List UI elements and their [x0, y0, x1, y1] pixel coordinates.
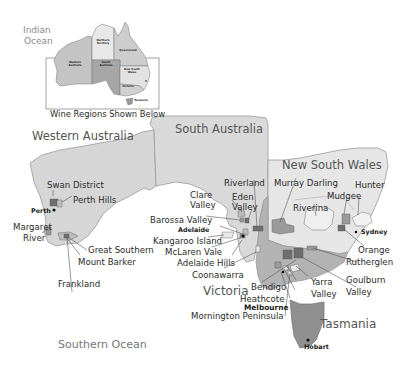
region-mclaren-vale: McLaren Vale — [165, 248, 222, 257]
region-bendigo: Bendigo — [251, 283, 286, 292]
city-adelaide: Adelaide — [178, 227, 209, 233]
inset-label-qld: Queensland — [116, 50, 140, 53]
inset-label-vic: Victoria — [120, 86, 136, 89]
inset-label-tas: Tasmania — [133, 100, 149, 103]
region-orange: Orange — [358, 246, 390, 255]
city-perth: Perth — [31, 208, 51, 214]
inset-label-wa: Western Australia — [64, 62, 86, 68]
region-clare-valley-line1: Clare — [190, 191, 212, 200]
sydney-dot — [355, 231, 358, 234]
orange-region — [338, 225, 345, 231]
region-eden-valley-line1: Eden — [232, 193, 254, 202]
region-barossa-valley: Barossa Valley — [150, 216, 212, 225]
riverland-region — [253, 226, 263, 231]
region-great-southern: Great Southern — [88, 246, 154, 255]
region-murray-darling: Murray Darling — [274, 179, 338, 188]
southern-ocean-label: Southern Ocean — [58, 339, 147, 350]
city-hobart: Hobart — [304, 344, 329, 350]
inset-sydney-dot — [145, 80, 147, 82]
region-margaret-river-line1: Margaret — [13, 223, 52, 232]
region-adelaide-hills: Adelaide Hills — [177, 259, 235, 268]
region-clare-valley-line2: Valley — [190, 201, 216, 210]
region-riverina: Riverina — [293, 204, 328, 213]
goulburn-region — [283, 250, 292, 259]
region-eden-valley-line2: Valley — [232, 203, 258, 212]
region-mornington-peninsula: Mornington Peninsula — [191, 312, 284, 321]
barossa-region — [240, 218, 244, 222]
state-label-tas: Tasmania — [320, 318, 376, 330]
region-margaret-river-line2: River — [23, 234, 45, 243]
hobart-dot — [306, 338, 309, 341]
region-kangaroo-island: Kangaroo Island — [153, 237, 222, 246]
region-mudgee: Mudgee — [327, 192, 361, 201]
region-yarra-valley-line2: Valley — [311, 290, 337, 299]
region-hunter: Hunter — [355, 181, 385, 190]
indian-ocean-label-line1: Indian — [23, 26, 51, 35]
indian-ocean-label-line2: Ocean — [24, 37, 53, 46]
adelaide-dot — [241, 234, 244, 237]
state-label-nsw: New South Wales — [282, 160, 382, 172]
inset-caption: Wine Regions Shown Below — [50, 110, 165, 118]
region-mount-barker: Mount Barker — [78, 258, 136, 267]
melbourne-dot — [282, 271, 285, 274]
region-riverland: Riverland — [224, 179, 265, 188]
state-label-sa: South Australia — [175, 124, 263, 136]
city-sydney: Sydney — [361, 229, 387, 235]
region-perth-hills: Perth Hills — [73, 196, 116, 205]
region-rutherglen: Rutherglen — [346, 258, 393, 267]
inset-label-nsw: New South Wales — [122, 69, 142, 75]
rutherglen-region — [294, 248, 303, 258]
region-goulburn-valley-line2: Valley — [346, 288, 372, 297]
bendigo-region — [275, 262, 281, 268]
coonawarra-region — [256, 246, 260, 252]
mudgee-region — [342, 214, 350, 224]
region-yarra-valley-line1: Yarra — [311, 278, 333, 287]
region-coonawarra: Coonawarra — [192, 271, 244, 280]
inset-label-nt: Northern Territory — [94, 40, 112, 46]
perth-dot — [52, 208, 55, 211]
perth-hills-region — [57, 200, 62, 207]
inset-queensland — [114, 22, 148, 66]
region-frankland: Frankland — [58, 280, 100, 289]
inset-tasmania — [126, 98, 133, 105]
inset-label-sa: South Australia — [95, 62, 117, 68]
state-label-wa: Western Australia — [32, 131, 134, 143]
region-swan-district: Swan District — [47, 181, 104, 190]
riverina-patch — [307, 246, 317, 250]
region-goulburn-valley-line1: Goulburn — [346, 276, 385, 285]
